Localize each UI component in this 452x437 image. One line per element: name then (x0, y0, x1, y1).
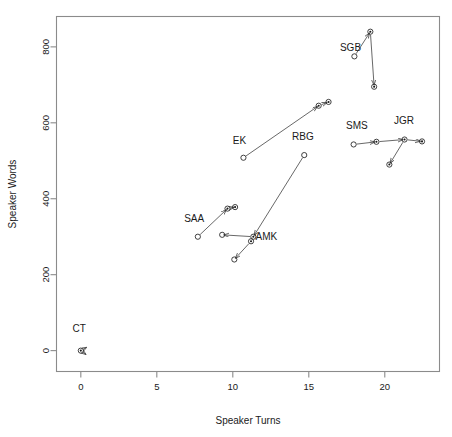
trajectory-arrow (390, 142, 403, 163)
y-tick-label: 800 (40, 39, 51, 55)
trajectory-arrow (224, 235, 250, 237)
series-ek: EK (233, 99, 331, 160)
x-tick-label: 0 (78, 381, 83, 392)
point-label-sgb: SGB (340, 42, 361, 53)
data-point-center (388, 164, 390, 166)
scatter-plot-figure: 05101520 0200400600800 SGBEKRBGSMSJGRSAA… (0, 0, 452, 437)
point-label-ct: CT (72, 323, 85, 334)
y-tick-label: 0 (40, 348, 51, 353)
trajectory-arrow (235, 244, 248, 259)
trajectory-arrow (254, 158, 302, 236)
data-point (241, 155, 246, 160)
data-point-center (375, 141, 377, 143)
data-point-center (250, 240, 252, 242)
point-label-amk: AMK (256, 231, 278, 242)
data-point-center (80, 350, 82, 352)
y-tick-label: 400 (40, 191, 51, 207)
series-rbg: RBG (251, 131, 314, 239)
chart-canvas: 05101520 0200400600800 SGBEKRBGSMSJGRSAA… (0, 0, 452, 437)
data-point-center (373, 86, 375, 88)
data-series-group: SGBEKRBGSMSJGRSAAAMKCT (72, 29, 424, 354)
series-amk: AMK (220, 231, 278, 262)
series-sms: SMS (346, 120, 379, 147)
point-label-jgr: JGR (394, 115, 414, 126)
x-tick-label: 15 (304, 381, 315, 392)
data-point (352, 54, 357, 59)
x-tick-label: 10 (228, 381, 239, 392)
x-tick-label: 5 (154, 381, 159, 392)
trajectory-arrow (408, 140, 421, 141)
x-tick-label: 20 (379, 381, 390, 392)
data-point-center (403, 138, 405, 140)
trajectory-arrow (371, 35, 374, 85)
plot-frame (57, 17, 440, 372)
series-saa: SAA (184, 204, 238, 239)
trajectory-arrow (380, 140, 403, 142)
point-label-ek: EK (233, 135, 247, 146)
y-axis: 0200400600800 (40, 39, 57, 353)
point-label-saa: SAA (184, 213, 204, 224)
trajectory-arrow (357, 142, 375, 144)
y-tick-label: 200 (40, 267, 51, 283)
data-point (232, 257, 237, 262)
series-sgb: SGB (340, 29, 377, 89)
point-label-sms: SMS (346, 120, 368, 131)
data-point (351, 142, 356, 147)
data-point-center (421, 140, 423, 142)
data-point-center (226, 208, 228, 210)
x-axis: 05101520 (78, 372, 390, 392)
series-jgr: JGR (380, 115, 425, 168)
data-point-center (234, 206, 236, 208)
point-label-rbg: RBG (292, 131, 314, 142)
x-axis-title: Speaker Turns (215, 415, 280, 426)
data-point (195, 234, 200, 239)
y-axis-title: Speaker Words (7, 160, 18, 229)
data-point (302, 152, 307, 157)
series-ct: CT (72, 323, 86, 354)
data-point-center (318, 105, 320, 107)
data-point-center (369, 31, 371, 33)
y-tick-label: 600 (40, 115, 51, 131)
data-point-center (328, 101, 330, 103)
data-point-center (252, 236, 254, 238)
